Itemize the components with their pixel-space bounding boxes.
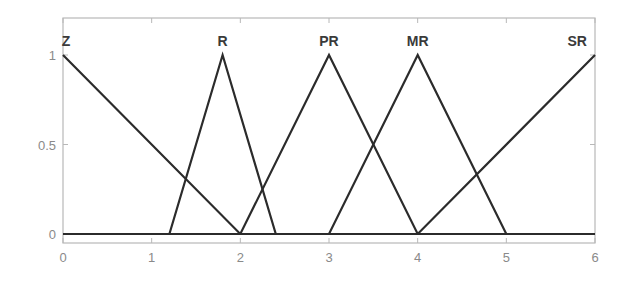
- y-tick-label: 0.5: [38, 138, 56, 153]
- y-axis-tick-labels: 00.51: [38, 48, 56, 242]
- mf-line-mr: [63, 55, 595, 234]
- mf-line-sr: [63, 55, 595, 234]
- y-tick-label: 0: [49, 227, 56, 242]
- membership-labels: ZRPRMRSR: [62, 33, 587, 49]
- axis-ticks: [63, 18, 595, 243]
- mf-label-r: R: [218, 33, 228, 49]
- x-axis-tick-labels: 0123456: [59, 250, 598, 265]
- mf-label-mr: MR: [407, 33, 429, 49]
- y-tick-label: 1: [49, 48, 56, 63]
- membership-function-chart: 0123456 00.51 ZRPRMRSR: [0, 0, 622, 282]
- x-tick-label: 5: [503, 250, 510, 265]
- x-tick-label: 2: [237, 250, 244, 265]
- mf-line-r: [63, 55, 595, 234]
- membership-lines: [63, 55, 595, 234]
- x-tick-label: 4: [414, 250, 421, 265]
- mf-label-z: Z: [62, 33, 71, 49]
- plot-frame: [63, 18, 595, 243]
- x-tick-label: 0: [59, 250, 66, 265]
- x-tick-label: 1: [148, 250, 155, 265]
- mf-label-pr: PR: [319, 33, 338, 49]
- mf-label-sr: SR: [568, 33, 587, 49]
- mf-line-z: [63, 55, 595, 234]
- mf-line-pr: [63, 55, 595, 234]
- x-tick-label: 3: [325, 250, 332, 265]
- x-tick-label: 6: [591, 250, 598, 265]
